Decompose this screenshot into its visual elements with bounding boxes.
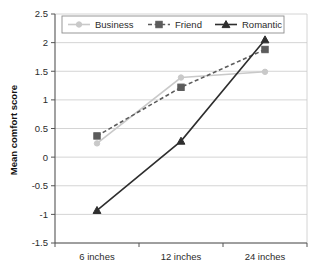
series-line-romantic xyxy=(97,40,265,211)
data-point-romantic xyxy=(261,36,269,43)
y-tick-label: 1 xyxy=(43,94,48,105)
y-tick-label: 2.5 xyxy=(35,8,48,19)
line-chart: 2.521.510.50-0.5-1-1.5 6 inches12 inches… xyxy=(0,0,319,276)
y-tick-label: -1 xyxy=(40,209,48,220)
data-point-friend xyxy=(262,46,268,52)
x-category-label: 6 inches xyxy=(79,251,115,262)
legend-label-romantic: Romantic xyxy=(242,19,282,30)
legend-label-business: Business xyxy=(95,19,134,30)
y-tick-label: -0.5 xyxy=(32,180,48,191)
y-axis-group: 2.521.510.50-0.5-1-1.5 xyxy=(32,8,55,248)
legend-marker-business xyxy=(76,22,81,27)
gridlines-group xyxy=(55,14,307,243)
y-tick-label: 0.5 xyxy=(35,123,48,134)
y-tick-label: -1.5 xyxy=(32,237,48,248)
x-category-label: 24 inches xyxy=(245,251,286,262)
x-axis-group: 6 inches12 inches24 inches xyxy=(55,243,307,262)
x-category-label: 12 inches xyxy=(161,251,202,262)
y-tick-label: 1.5 xyxy=(35,66,48,77)
y-axis-title: Mean comfort score xyxy=(8,85,19,175)
data-point-friend xyxy=(178,84,184,90)
legend-group[interactable]: BusinessFriendRomantic xyxy=(62,16,284,33)
data-point-business xyxy=(94,141,99,146)
y-tick-label: 0 xyxy=(43,152,48,163)
series-group xyxy=(93,36,269,214)
data-point-business xyxy=(178,75,183,80)
series-line-business xyxy=(97,72,265,144)
data-point-friend xyxy=(94,133,100,139)
y-tick-label: 2 xyxy=(43,37,48,48)
legend-label-friend: Friend xyxy=(175,19,202,30)
chart-canvas: 2.521.510.50-0.5-1-1.5 6 inches12 inches… xyxy=(0,0,319,276)
data-point-business xyxy=(262,69,267,74)
legend-marker-friend xyxy=(156,21,162,27)
